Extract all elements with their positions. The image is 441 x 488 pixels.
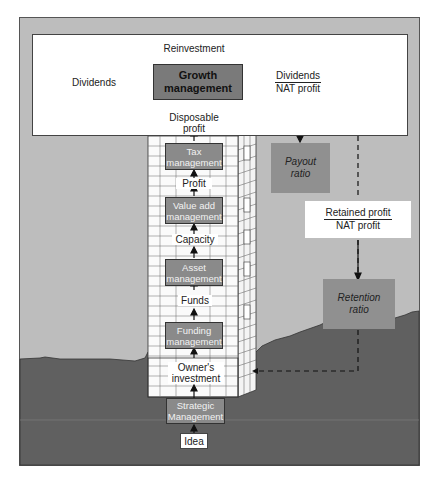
- retention-ratio-line1: Retention: [338, 292, 381, 304]
- funds-label: Funds: [178, 295, 212, 306]
- value-add-line2: management: [166, 211, 221, 222]
- tax-management-box: Tax management: [165, 143, 223, 170]
- asset-line1: Asset: [182, 262, 206, 273]
- disposable-profit-label: Disposable profit: [160, 112, 228, 134]
- growth-management-box: Growth management: [153, 64, 243, 100]
- asset-line2: management: [166, 273, 221, 284]
- reinvestment-label: Reinvestment: [158, 43, 230, 54]
- retention-ratio-box: Retention ratio: [323, 279, 395, 329]
- tax-line2: management: [166, 157, 221, 168]
- disposable-line1: Disposable: [160, 112, 228, 123]
- retention-fraction: Retained profit NAT profit: [305, 201, 411, 238]
- payout-fraction: Dividends NAT profit: [268, 70, 328, 95]
- capacity-label: Capacity: [172, 234, 218, 245]
- payout-ratio-box: Payout ratio: [271, 143, 330, 193]
- value-add-management-box: Value add management: [165, 197, 223, 224]
- funding-management-box: Funding management: [165, 322, 223, 349]
- tax-line1: Tax: [187, 146, 202, 157]
- payout-ratio-line2: ratio: [291, 168, 310, 180]
- strategic-line1: Strategic: [177, 400, 215, 411]
- strategic-line2: Management: [168, 411, 223, 422]
- owners-investment-label: Owner's investment: [168, 362, 224, 384]
- retention-numerator: Retained profit: [324, 207, 391, 220]
- dividends-label: Dividends: [68, 77, 120, 88]
- strategic-management-box: Strategic Management: [166, 398, 225, 424]
- owners-line2: investment: [170, 373, 222, 384]
- building-side: [238, 130, 256, 397]
- funding-line2: management: [166, 336, 221, 347]
- payout-denominator: NAT profit: [276, 83, 320, 95]
- retention-denominator: NAT profit: [336, 220, 380, 232]
- asset-management-box: Asset management: [165, 259, 223, 286]
- payout-numerator: Dividends: [275, 70, 321, 83]
- owners-line1: Owner's: [170, 362, 222, 373]
- funding-line1: Funding: [177, 325, 211, 336]
- payout-ratio-line1: Payout: [285, 156, 316, 168]
- retention-ratio-line2: ratio: [349, 304, 368, 316]
- disposable-line2: profit: [160, 123, 228, 134]
- value-add-line1: Value add: [173, 200, 215, 211]
- idea-box: Idea: [180, 433, 208, 449]
- growth-management-line1: Growth: [179, 69, 218, 82]
- growth-management-line2: management: [164, 82, 232, 95]
- profit-label: Profit: [176, 178, 212, 189]
